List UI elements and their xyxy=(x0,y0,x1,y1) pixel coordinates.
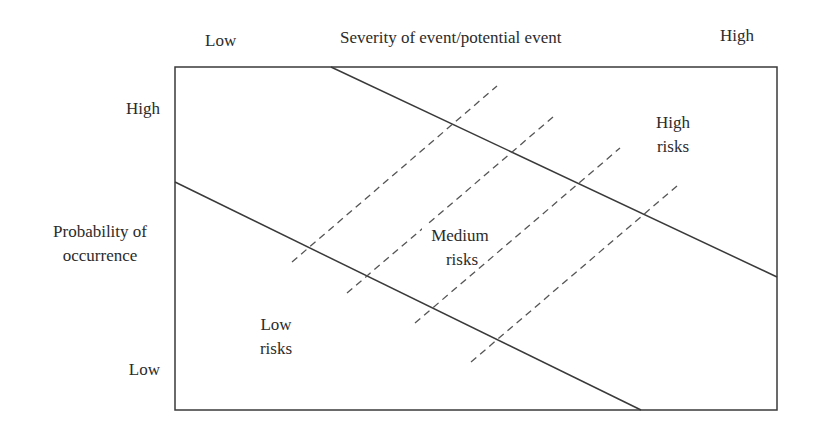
dashed-line-4 xyxy=(471,186,677,362)
medium-risks-label-line1: Medium xyxy=(422,224,498,248)
high-risk-boundary xyxy=(331,67,777,277)
low-risks-label-line1: Low xyxy=(252,313,300,337)
high-risks-label-line1: High xyxy=(645,111,701,135)
medium-risks-label-line2: risks xyxy=(440,248,484,272)
risk-matrix-diagram xyxy=(0,0,816,433)
low-risk-boundary xyxy=(175,182,641,410)
high-risks-label-line2: risks xyxy=(645,135,701,159)
low-risks-label-line2: risks xyxy=(252,337,300,361)
